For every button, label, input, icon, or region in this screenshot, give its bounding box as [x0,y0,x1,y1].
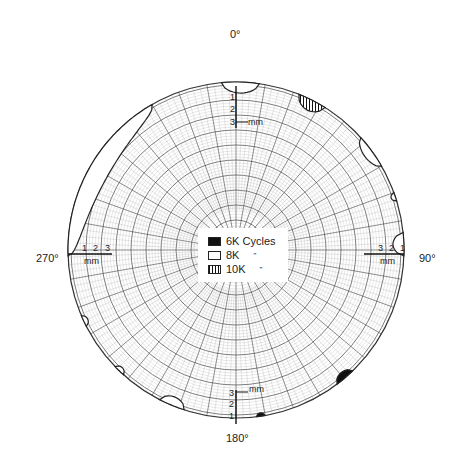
wear-region-8k [391,193,397,201]
hatch-swatch-icon [208,265,221,274]
svg-text:mm: mm [84,256,99,266]
svg-text:3: 3 [229,388,234,398]
svg-text:2: 2 [230,104,235,114]
wear-region-6k-cycles [257,413,266,417]
svg-text:mm: mm [249,384,264,394]
svg-text:3: 3 [105,243,110,253]
svg-text:3: 3 [230,117,235,127]
angle-label-0: 0° [230,28,241,40]
svg-text:1: 1 [400,243,405,253]
svg-text:1: 1 [229,411,234,421]
legend: 6K Cycles 8K " 10K " [204,233,280,277]
svg-text:mm: mm [248,117,263,127]
svg-text:1: 1 [230,92,235,102]
angle-label-270: 270° [36,252,59,264]
svg-text:3: 3 [378,243,383,253]
svg-text:2: 2 [389,243,394,253]
wear-region-8k [115,366,124,375]
angle-label-180: 180° [226,432,249,444]
legend-item-8k: 8K " [208,249,256,261]
svg-text:mm: mm [380,256,395,266]
svg-text:2: 2 [93,243,98,253]
svg-text:1: 1 [82,243,87,253]
wear-region-8k [221,82,259,93]
svg-text:2: 2 [229,399,234,409]
wear-region-6k-cycles [337,370,353,385]
legend-item-10k: 10K " [208,263,262,275]
solid-swatch-icon [208,237,221,246]
angle-label-90: 90° [419,252,436,264]
wear-region-8k [81,316,88,327]
wear-region-8k [160,396,184,410]
open-swatch-icon [208,251,221,260]
wear-region-8k [359,138,381,166]
polar-wear-chart: 0° 90° 180° 270° 1 2 3 mm 3 2 1 mm 1 2 3… [0,0,449,464]
legend-item-6k: 6K Cycles [208,235,276,247]
